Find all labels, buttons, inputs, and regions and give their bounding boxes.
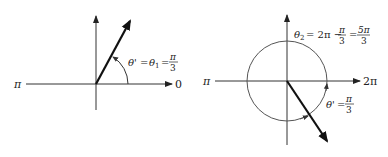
left-angle-label: θ' = θ 1 = π 3 <box>128 52 178 73</box>
right-reference-angle-label: θ' = π 3 <box>326 94 354 115</box>
right-theta2-label: θ 2 = 2π − π 3 = 5π 3 <box>294 25 371 46</box>
svg-text:=: = <box>140 57 148 68</box>
svg-text:π: π <box>345 94 353 104</box>
right-terminal-vector <box>287 81 327 141</box>
right-diagram: π 2π θ 2 = 2π − π 3 = 5π 3 θ' = π 3 <box>202 15 377 145</box>
right-axis-2pi-label: 2π <box>363 75 377 88</box>
svg-text:θ': θ' <box>128 57 137 68</box>
svg-text:=: = <box>337 99 345 110</box>
svg-text:3: 3 <box>339 36 345 46</box>
svg-text:5π: 5π <box>358 25 371 35</box>
right-axis-pi-label: π <box>202 75 211 88</box>
left-diagram: π 0 θ' = θ 1 = π 3 <box>13 16 182 110</box>
svg-text:3: 3 <box>170 63 176 73</box>
svg-text:=: = <box>349 29 357 40</box>
right-arc-arrow-lower <box>300 116 308 119</box>
svg-text:π: π <box>338 25 346 35</box>
left-axis-pi-label: π <box>13 78 22 91</box>
svg-text:2: 2 <box>300 34 304 42</box>
svg-text:3: 3 <box>361 36 367 46</box>
svg-text:= 2π −: = 2π − <box>306 29 342 40</box>
svg-text:θ': θ' <box>326 99 335 110</box>
svg-text:1: 1 <box>155 62 159 70</box>
left-axis-zero-label: 0 <box>175 78 182 91</box>
svg-text:π: π <box>169 52 177 62</box>
right-arc-arrow-upper <box>326 84 327 91</box>
left-terminal-vector <box>96 21 130 84</box>
left-angle-arc <box>113 57 128 84</box>
svg-text:3: 3 <box>346 105 352 115</box>
diagram-canvas: π 0 θ' = θ 1 = π 3 π 2π θ 2 = 2π − π 3 <box>0 0 388 157</box>
svg-text:=: = <box>161 57 169 68</box>
